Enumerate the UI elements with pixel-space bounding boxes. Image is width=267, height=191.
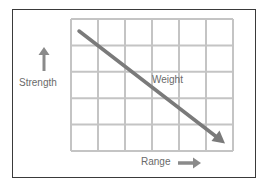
x-axis-label: Range xyxy=(141,156,170,167)
trend-label: Weight xyxy=(152,74,183,85)
x-axis-arrow-icon xyxy=(178,158,201,169)
y-axis-label: Strength xyxy=(19,77,57,88)
diagram-canvas xyxy=(0,0,267,191)
y-axis-arrow-icon xyxy=(39,47,50,71)
